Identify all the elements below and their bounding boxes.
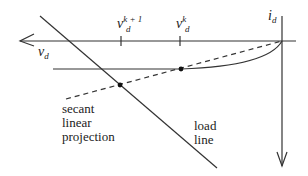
load-line [40,16,217,168]
vd-axis-label: vd [38,44,49,61]
tick-label-vd-k-sub: d [185,24,190,34]
tick-label-vd-k-plus-1-sub: d [126,24,131,34]
id-axis-label: id [268,8,277,25]
secant-line [66,41,282,99]
intersection-point [118,83,123,88]
secant-label: secant linear projection [62,101,115,144]
secant-projection-diagram: vd id vk + 1 d vk d secant linear projec… [0,0,308,176]
vd-axis [20,34,296,46]
load-line-label: load line [194,118,220,147]
left-arrow-icon [20,34,34,46]
id-axis [277,16,287,166]
operating-point [179,67,184,72]
